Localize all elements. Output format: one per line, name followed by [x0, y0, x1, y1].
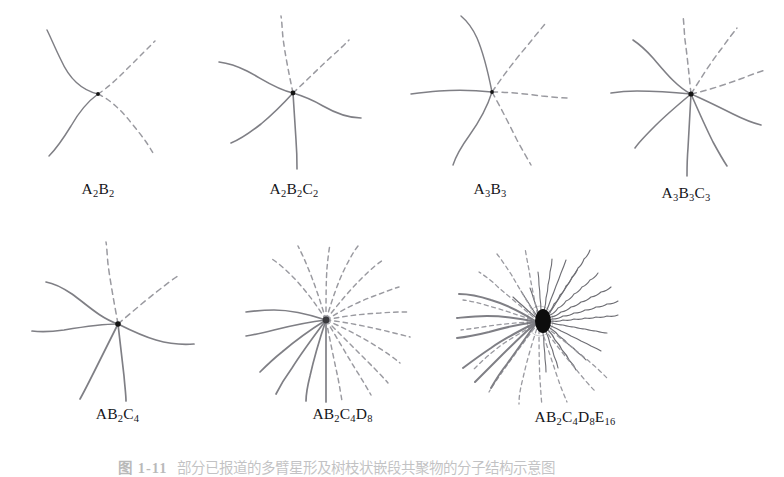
figure-caption-body: 部分已报道的多臂星形及树枝状嵌段共聚物的分子结构示意图 — [177, 460, 555, 476]
a2b2-svg — [3, 8, 193, 176]
diagram-ab2c4d8e16 — [455, 238, 695, 406]
label-ab2c4d8: AB2C4D8 — [312, 405, 372, 423]
core-node — [688, 91, 693, 96]
label-a3b3c3: A3B3C3 — [662, 184, 711, 202]
a2b2c2-svg — [199, 8, 389, 176]
ab2c4d8e16-svg — [455, 238, 695, 406]
diagram-ab2c4 — [18, 238, 218, 403]
panel-a3b3: A3B3 — [392, 8, 588, 223]
ab2c4-svg — [18, 238, 218, 403]
label-a2b2: A2B2 — [82, 180, 115, 198]
label-ab2c4d8e16: AB2C4D8E16 — [535, 408, 616, 426]
diagram-a3b3c3 — [591, 8, 781, 180]
ab2c4d8-svg — [240, 238, 445, 403]
panel-a3b3c3: A3B3C3 — [588, 8, 784, 223]
core-node — [323, 317, 330, 324]
panel-ab2c4d8e16: AB2C4D8E16 — [450, 238, 700, 443]
core-node — [535, 309, 551, 333]
label-a3b3: A3B3 — [474, 180, 507, 198]
label-a2b2c2: A2B2C2 — [270, 180, 319, 198]
row-spacer — [700, 238, 784, 443]
diagram-a2b2c2 — [199, 8, 389, 176]
diagram-a3b3 — [395, 8, 585, 176]
diagram-row-bottom: AB2C4 — [0, 238, 784, 443]
a3b3c3-svg — [591, 8, 781, 180]
a3b3-svg — [395, 8, 585, 176]
label-ab2c4: AB2C4 — [96, 405, 139, 423]
figure-panel: A2B2 — [0, 0, 784, 477]
core-node — [96, 92, 100, 96]
panel-a2b2: A2B2 — [0, 8, 196, 223]
panel-ab2c4d8: AB2C4D8 — [235, 238, 450, 443]
panel-ab2c4: AB2C4 — [0, 238, 235, 443]
figure-caption-strip: 图 1-11部分已报道的多臂星形及树枝状嵌段共聚物的分子结构示意图 — [0, 455, 784, 477]
diagram-row-top: A2B2 — [0, 8, 784, 223]
diagram-ab2c4d8 — [240, 238, 445, 403]
core-node — [291, 91, 296, 96]
core-node — [115, 321, 121, 327]
panel-a2b2c2: A2B2C2 — [196, 8, 392, 223]
core-node — [490, 90, 494, 94]
diagram-a2b2 — [3, 8, 193, 176]
figure-caption: 图 1-11部分已报道的多臂星形及树枝状嵌段共聚物的分子结构示意图 — [118, 456, 555, 477]
figure-caption-number: 图 1-11 — [118, 460, 167, 476]
